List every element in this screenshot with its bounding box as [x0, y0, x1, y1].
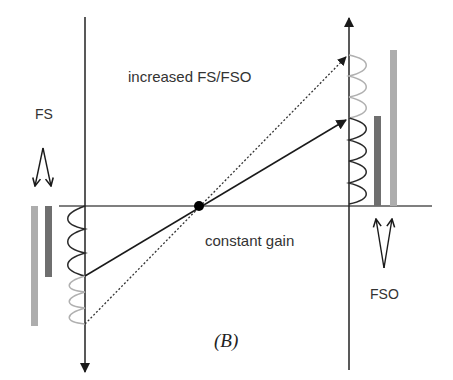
right-wave-dark: [349, 118, 366, 204]
pivot-point: [194, 201, 204, 211]
right-bar-dark: [374, 116, 381, 206]
right-bar-light: [390, 50, 397, 206]
left-bar-light: [31, 206, 38, 326]
increased-gain-label: increased FS/FSO: [128, 68, 251, 85]
diagram-canvas: [0, 0, 453, 380]
right-wave-light: [349, 55, 366, 118]
fso-split-arrow-icon: [376, 219, 392, 268]
constant-gain-line: [85, 120, 346, 276]
left-bar-dark: [45, 206, 52, 277]
increased-gain-line: [85, 57, 346, 324]
panel-label: (B): [214, 330, 238, 352]
constant-gain-label: constant gain: [205, 232, 294, 249]
lever-diagram: increased FS/FSO constant gain FS FSO (B…: [0, 0, 453, 380]
fs-label: FS: [35, 106, 53, 122]
left-wave-light: [69, 276, 85, 324]
fs-split-arrow-icon: [35, 148, 51, 186]
left-wave-dark: [68, 206, 85, 276]
fso-label: FSO: [370, 286, 399, 302]
